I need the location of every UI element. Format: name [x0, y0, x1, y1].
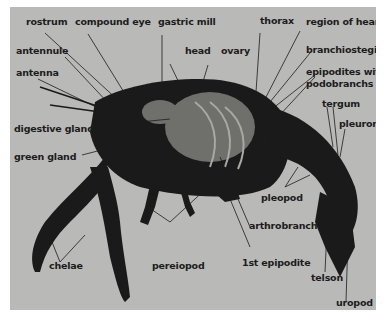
label-epipodites-line2: podobranchs: [306, 78, 373, 89]
label-region-of-heart: region of heart: [306, 16, 376, 27]
label-telson: telson: [311, 272, 343, 283]
label-1st-epipodite: 1st epipodite: [242, 257, 310, 268]
label-epipodites-line1: epipodites with: [306, 66, 376, 77]
label-pleopod: pleopod: [261, 192, 303, 203]
label-gastric-mill: gastric mill: [158, 16, 216, 27]
label-arthrobranch: arthrobranch: [249, 220, 317, 231]
label-branchiostegite: branchiostegite: [306, 44, 376, 55]
label-digestive-gland: digestive gland: [14, 123, 94, 134]
label-uropod: uropod: [336, 297, 373, 308]
label-green-gland: green gland: [14, 151, 76, 162]
label-antennule: antennule: [16, 45, 68, 56]
label-thorax: thorax: [260, 15, 294, 26]
label-compound-eye: compound eye: [75, 16, 151, 27]
label-tergum: tergum: [322, 98, 360, 109]
label-ovary: ovary: [221, 45, 250, 56]
label-pleuron: pleuron: [339, 118, 376, 129]
crayfish-photo: rostrum compound eye gastric mill thorax…: [10, 7, 376, 310]
label-pereiopod: pereiopod: [152, 260, 204, 271]
label-chelae: chelae: [49, 260, 83, 271]
label-head: head: [185, 45, 211, 56]
label-rostrum: rostrum: [26, 16, 67, 27]
label-antenna: antenna: [16, 67, 59, 78]
